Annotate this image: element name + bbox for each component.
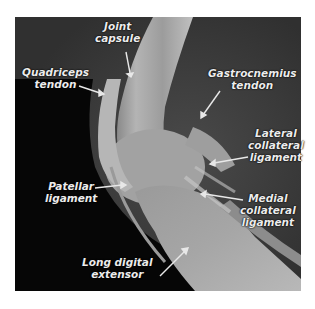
label-medial-collateral-ligament: Medial collateral ligament xyxy=(240,192,296,228)
label-patellar-ligament: Patellar ligament xyxy=(45,180,97,204)
label-long-digital-extensor: Long digital extensor xyxy=(82,256,153,280)
label-joint-capsule: Joint capsule xyxy=(95,20,140,44)
label-quadriceps-tendon: Quadriceps tendon xyxy=(22,66,89,90)
label-lateral-collateral-ligament: Lateral collateral ligament xyxy=(248,127,304,163)
label-gastrocnemius-tendon: Gastrocnemius tendon xyxy=(208,67,296,91)
